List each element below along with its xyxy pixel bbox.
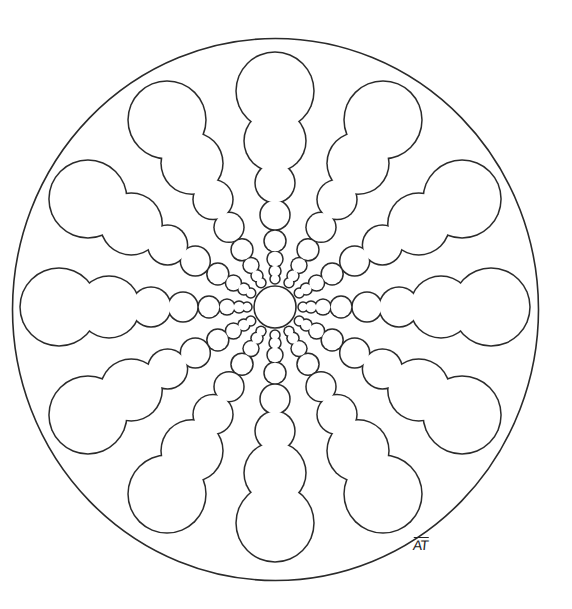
petal-bead — [322, 264, 343, 285]
petal-bead — [243, 303, 252, 312]
petal-bead — [232, 354, 253, 375]
petal-bead — [265, 231, 286, 252]
petal-bead — [316, 300, 331, 315]
petal-bead — [226, 324, 241, 339]
petal-bead — [363, 350, 402, 389]
petal-bead — [271, 331, 280, 340]
petal-bead — [261, 385, 290, 414]
center-circle — [254, 286, 296, 328]
petal-bead — [257, 279, 266, 288]
petal-bead — [220, 300, 235, 315]
petal-bead — [271, 275, 280, 284]
petal-bead — [307, 213, 336, 242]
petal-bead — [285, 327, 294, 336]
petal-bead — [380, 288, 419, 327]
center-disc — [254, 286, 296, 328]
petal-bead — [307, 372, 336, 401]
petal-bead — [148, 350, 187, 389]
petal-bead — [268, 348, 283, 363]
petal-bead — [226, 276, 241, 291]
petal-bead — [270, 338, 281, 349]
petal-bead — [215, 213, 244, 242]
petal-bead — [265, 363, 286, 384]
petal-bead — [232, 240, 253, 261]
petal-bead — [295, 289, 304, 298]
petal-bead — [257, 327, 266, 336]
petal-bead — [169, 293, 198, 322]
petal-bead — [295, 317, 304, 326]
artist-signature: AT — [412, 537, 428, 552]
petal-bead — [340, 339, 369, 368]
petal-bead — [285, 279, 294, 288]
petal-bead — [292, 258, 307, 273]
petal-bead — [247, 317, 256, 326]
petal-bead — [244, 341, 259, 356]
petal-bead — [318, 395, 357, 434]
petal-bead — [208, 330, 229, 351]
petal-bead — [132, 288, 171, 327]
petal-bead — [270, 266, 281, 277]
petal-bead — [199, 297, 220, 318]
petal-bead — [331, 297, 352, 318]
petal-bead — [292, 341, 307, 356]
petal-bead — [208, 264, 229, 285]
petal-bead — [247, 289, 256, 298]
petal-bead — [215, 372, 244, 401]
petal-bead — [353, 293, 382, 322]
petal-bead — [194, 395, 233, 434]
petal-bead — [245, 443, 306, 504]
petal-bead — [256, 164, 295, 203]
petal-bead — [306, 302, 317, 313]
petal-bead — [234, 302, 245, 313]
petal-bead — [268, 252, 283, 267]
petal-bead — [318, 180, 357, 219]
petal-bead — [298, 240, 319, 261]
petal-bead — [322, 330, 343, 351]
petal-bead — [340, 247, 369, 276]
petal-bead — [309, 324, 324, 339]
petal-bead — [363, 226, 402, 265]
petal-bead — [298, 354, 319, 375]
petal-bead — [79, 277, 140, 338]
petal-bead — [261, 201, 290, 230]
petal-bead — [256, 412, 295, 451]
petal-bead — [244, 258, 259, 273]
mandala-artwork — [0, 0, 572, 609]
petal-bead — [181, 247, 210, 276]
petal-bead — [411, 277, 472, 338]
petal-bead — [194, 180, 233, 219]
petal-bead — [245, 111, 306, 172]
petal-bead — [181, 339, 210, 368]
petal-bead — [309, 276, 324, 291]
petal-bead — [299, 303, 308, 312]
petal-bead — [148, 226, 187, 265]
